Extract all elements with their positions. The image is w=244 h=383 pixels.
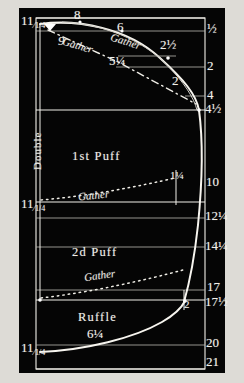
left-scale-label-bottom: 11⁄1/4 [21, 341, 45, 354]
right-scale-10: 10 [206, 175, 219, 188]
ruffle-label: Ruffle [78, 311, 117, 324]
node-2half [166, 56, 170, 60]
triangle-marker-icon [44, 24, 56, 31]
right-scale-4half: 4½ [205, 102, 221, 115]
measure-label-5quarter: 5¼ [109, 54, 125, 67]
measure-label-2-upper: 2 [172, 74, 179, 87]
frame-rect [36, 18, 205, 369]
measure-label-2-lower: 2 [184, 299, 190, 310]
right-scale-14quarter: 14¼ [205, 239, 228, 252]
right-scale-12quarter: 12¼ [205, 209, 228, 222]
left-scale-label-mid: 11⁄1/4 [21, 197, 45, 210]
node-4half [197, 108, 201, 112]
measure-label-8: 8 [74, 8, 81, 21]
measure-label-6: 6 [117, 20, 124, 33]
right-scale-17: 17 [207, 280, 220, 293]
right-scale-21: 21 [206, 355, 219, 368]
right-scale-4: 4 [207, 88, 214, 101]
measure-label-1quarter: 1¼ [170, 170, 184, 181]
node-left-mid [38, 298, 42, 302]
measure-label-6quarter: 6¼ [87, 327, 103, 340]
ruffle-curve [40, 301, 185, 352]
right-scale-17half: 17½ [205, 295, 228, 308]
right-scale-20: 20 [206, 336, 219, 349]
left-scale-label-top: 11⁄1/4 [21, 14, 45, 27]
first-puff-label: 1st Puff [72, 150, 121, 163]
right-scale-2: 2 [207, 59, 214, 72]
drafting-plate: 11⁄1/4 11⁄1/4 11⁄1/4 ½ 2 4 4½ 10 12¼ 14¼… [0, 0, 244, 383]
second-puff-label: 2d Puff [72, 246, 117, 259]
measure-label-2half: 2½ [160, 38, 176, 51]
double-label: Double [32, 132, 43, 170]
right-scale-half: ½ [207, 22, 217, 35]
